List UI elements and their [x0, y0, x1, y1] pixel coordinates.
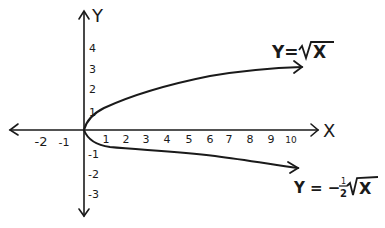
x-tick-label: 9	[268, 133, 275, 146]
x-tick-label: 8	[247, 133, 254, 146]
fraction-numerator: 1	[341, 177, 346, 186]
x-axis-label: X	[323, 120, 335, 141]
x-tick-label: 2	[123, 133, 130, 146]
x-tick-label: 7	[226, 133, 233, 146]
y-tick-label: 3	[89, 63, 96, 76]
x-tick-label: -2	[35, 134, 48, 149]
x-tick-label: 3	[143, 133, 150, 146]
y-tick-label: 4	[89, 42, 96, 55]
y-axis	[79, 11, 89, 216]
y-axis-label: Y	[91, 5, 104, 26]
y-tick-label: -3	[88, 188, 99, 201]
x-tick-label: 4	[164, 133, 171, 146]
annotation-sqrt-x-prefix: Y=	[271, 42, 299, 62]
curve-sqrt-x	[84, 67, 302, 130]
x-tick-label: 10	[285, 135, 297, 145]
chart: X Y -2 -1 1 2 3 4 5 6 7 8 9 10 4 3 2 1 -…	[0, 0, 385, 228]
annotation-sqrt-x-radicand: X	[313, 42, 326, 62]
annotation-neg-half-sqrt-x: Y = − 1 2 X	[293, 177, 378, 199]
y-tick-labels: 4 3 2 1 -1 -2 -3	[88, 42, 99, 201]
y-tick-label: -2	[88, 168, 99, 181]
x-tick-labels: -2 -1 1 2 3 4 5 6 7 8 9 10	[35, 133, 297, 149]
x-tick-label: 5	[186, 133, 193, 146]
x-tick-label: 6	[207, 133, 214, 146]
x-tick-label: 1	[103, 133, 110, 146]
annotation-sqrt-x: Y= X	[271, 42, 334, 62]
x-tick-label: -1	[59, 136, 70, 149]
annotation-neg-half-prefix: Y = −	[293, 179, 340, 197]
y-tick-label: 2	[89, 83, 96, 96]
annotation-neg-half-radicand: X	[359, 179, 372, 198]
y-tick-label: -1	[88, 148, 99, 161]
fraction-denominator: 2	[340, 188, 347, 199]
